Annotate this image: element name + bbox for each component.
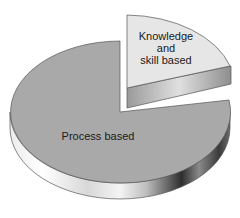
label-knowledge-line3: skill based [140,54,191,66]
slice-knowledge-skill-based: Knowledge and skill based [127,15,231,108]
pie-chart: Process based Knowledge and skill based [0,0,240,218]
label-knowledge-line1: Knowledge [139,30,193,42]
label-process-based: Process based [62,130,135,142]
label-knowledge-line2: and [157,42,175,54]
